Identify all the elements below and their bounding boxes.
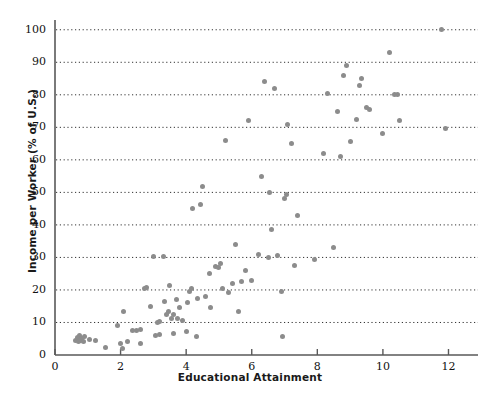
data-point (93, 338, 98, 343)
data-point (157, 332, 162, 337)
data-point (292, 263, 297, 268)
data-point (387, 50, 392, 55)
data-point (180, 318, 185, 323)
data-point (207, 271, 212, 276)
data-point (138, 327, 143, 332)
data-point (344, 63, 349, 68)
data-point (367, 107, 372, 112)
data-point (267, 190, 272, 195)
data-point (184, 329, 189, 334)
data-point (115, 323, 120, 328)
data-point (395, 92, 400, 97)
data-point (266, 255, 271, 260)
data-point (166, 309, 171, 314)
data-point (81, 339, 86, 344)
data-point (185, 300, 190, 305)
data-point (246, 118, 251, 123)
data-point (220, 286, 225, 291)
data-point (295, 213, 300, 218)
data-point (243, 268, 248, 273)
data-point (443, 126, 448, 131)
data-point (380, 131, 385, 136)
data-point (397, 118, 402, 123)
data-point (194, 334, 199, 339)
data-point (262, 79, 267, 84)
data-point (87, 337, 92, 342)
data-point (218, 261, 223, 266)
data-point (284, 192, 289, 197)
data-point (325, 91, 330, 96)
data-point (354, 117, 359, 122)
data-points-layer (0, 0, 488, 394)
data-point (285, 122, 290, 127)
data-point (321, 151, 326, 156)
data-point (157, 319, 162, 324)
data-point (162, 299, 167, 304)
data-point (198, 202, 203, 207)
data-point (121, 309, 126, 314)
data-point (338, 154, 343, 159)
data-point (138, 341, 143, 346)
data-point (226, 290, 231, 295)
data-point (272, 86, 277, 91)
data-point (312, 257, 317, 262)
data-point (439, 27, 444, 32)
data-point (357, 83, 362, 88)
data-point (279, 289, 284, 294)
data-point (259, 174, 264, 179)
data-point (190, 206, 195, 211)
data-point (335, 109, 340, 114)
data-point (233, 242, 238, 247)
data-point (239, 279, 244, 284)
data-point (144, 285, 149, 290)
data-point (151, 254, 156, 259)
data-point (280, 334, 285, 339)
data-point (103, 345, 108, 350)
data-point (177, 305, 182, 310)
data-point (256, 252, 261, 257)
data-point (282, 196, 287, 201)
data-point (125, 339, 130, 344)
data-point (200, 184, 205, 189)
data-point (348, 139, 353, 144)
data-point (249, 278, 254, 283)
data-point (148, 304, 153, 309)
data-point (203, 294, 208, 299)
data-point (223, 138, 228, 143)
data-point (331, 245, 336, 250)
data-point (236, 309, 241, 314)
data-point (269, 227, 274, 232)
data-point (275, 253, 280, 258)
data-point (230, 281, 235, 286)
data-point (167, 283, 172, 288)
data-point (161, 254, 166, 259)
data-point (341, 73, 346, 78)
data-point (120, 346, 125, 351)
data-point (359, 76, 364, 81)
data-point (171, 331, 176, 336)
data-point (174, 297, 179, 302)
scatter-chart: Income per Worker (% of U.S.) Educationa… (0, 0, 488, 394)
data-point (208, 305, 213, 310)
data-point (289, 141, 294, 146)
data-point (195, 296, 200, 301)
